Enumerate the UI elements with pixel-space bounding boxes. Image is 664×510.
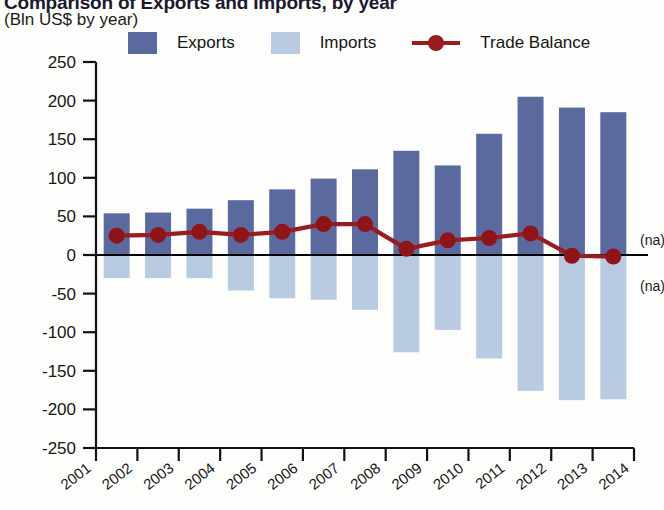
x-axis-tick-label: 2012 [512, 459, 549, 493]
bar-imports [311, 255, 337, 300]
y-axis-tick-label: -100 [42, 323, 76, 342]
x-axis-tick-label: 2014 [595, 459, 632, 493]
y-axis-tick-label: -250 [42, 439, 76, 458]
y-axis-tick-label: -150 [42, 362, 76, 381]
bar-exports [393, 151, 419, 255]
bar-imports [559, 255, 585, 400]
bar-imports [518, 255, 544, 391]
bar-imports [186, 255, 212, 278]
trade-balance-point [481, 230, 497, 246]
y-axis-tick-label: -50 [51, 285, 76, 304]
y-axis-tick-label: 100 [48, 169, 76, 188]
bar-imports [228, 255, 254, 291]
trade-balance-point [564, 248, 580, 264]
bar-exports [352, 169, 378, 255]
x-axis-tick-label: 2007 [305, 459, 342, 493]
bar-imports [352, 255, 378, 310]
x-axis-tick-label: 2008 [347, 459, 384, 493]
x-axis-tick-label: 2005 [223, 459, 260, 493]
trade-balance-point [274, 224, 290, 240]
na-label-lower: (na) [640, 278, 664, 294]
trade-balance-point [605, 249, 621, 265]
x-axis-tick-label: 2004 [181, 459, 218, 493]
x-axis-tick-label: 2013 [554, 459, 591, 493]
x-axis-tick-label: 2002 [98, 459, 135, 493]
bar-imports [145, 255, 171, 278]
x-axis-tick-label: 2003 [140, 459, 177, 493]
bar-exports [559, 108, 585, 255]
x-axis-tick-label: 2011 [472, 459, 508, 492]
y-axis-tick-label: 0 [67, 246, 76, 265]
x-axis-tick-label: 2009 [388, 459, 425, 493]
trade-balance-point [398, 241, 414, 257]
y-axis-tick-label: 200 [48, 92, 76, 111]
x-axis-tick-label: 2001 [57, 459, 94, 493]
trade-balance-point [233, 227, 249, 243]
trade-balance-point [523, 225, 539, 241]
chart-plot-area: 250200150100500-50-100-150-200-250200120… [0, 0, 664, 510]
bar-imports [600, 255, 626, 399]
bar-imports [104, 255, 130, 278]
bar-imports [393, 255, 419, 352]
trade-balance-point [316, 216, 332, 232]
x-axis-tick-label: 2006 [264, 459, 301, 493]
chart-svg: 250200150100500-50-100-150-200-250200120… [0, 0, 664, 510]
trade-balance-point [150, 227, 166, 243]
y-axis-tick-label: 250 [48, 53, 76, 72]
trade-balance-point [440, 232, 456, 248]
bar-exports [269, 189, 295, 255]
bar-exports [600, 112, 626, 255]
x-axis-tick-label: 2010 [430, 459, 467, 493]
y-axis-tick-label: 150 [48, 130, 76, 149]
bar-imports [476, 255, 502, 358]
bar-imports [269, 255, 295, 298]
trade-balance-point [109, 228, 125, 244]
y-axis-tick-label: 50 [57, 207, 76, 226]
bar-imports [435, 255, 461, 330]
na-label-upper: (na) [640, 232, 664, 248]
trade-balance-point [191, 224, 207, 240]
trade-balance-point [357, 216, 373, 232]
y-axis-tick-label: -200 [42, 400, 76, 419]
